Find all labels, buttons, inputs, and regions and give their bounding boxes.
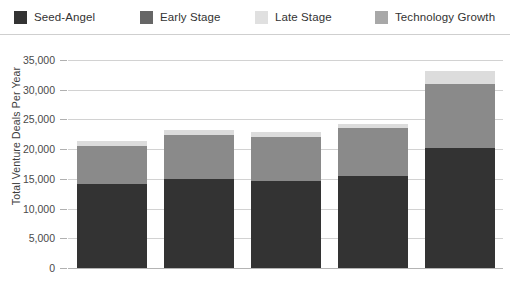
y-tick-label: 10,000 (0, 203, 55, 215)
bar-group-2016[interactable] (251, 60, 321, 268)
gridline (68, 268, 503, 269)
y-axis (0, 34, 68, 298)
plot-area: 05,00010,00015,00020,00025,00030,00035,0… (68, 60, 503, 268)
y-tick-mark (60, 60, 67, 61)
bar-chart: Total Venture Deals Per Year 05,00010,00… (0, 34, 510, 298)
bar-segment-seed-angel-2015[interactable] (164, 179, 234, 268)
y-tick-mark (60, 268, 67, 269)
legend-label-late-stage: Late Stage (275, 11, 332, 23)
legend-item-technology-growth[interactable]: Technology Growth (375, 0, 495, 34)
bar-group-2014[interactable] (77, 60, 147, 268)
y-tick-label: 25,000 (0, 113, 55, 125)
bar-segment-seed-angel-2018[interactable] (425, 148, 495, 268)
y-tick-label: 30,000 (0, 84, 55, 96)
legend-item-early-stage[interactable]: Early Stage (140, 0, 255, 34)
bar-group-2018[interactable] (425, 60, 495, 268)
bar-segment-seed-angel-2014[interactable] (77, 184, 147, 268)
y-tick-mark (60, 209, 67, 210)
y-tick-mark (60, 119, 67, 120)
legend-swatch-icon-early-stage (140, 11, 153, 24)
y-tick-mark (60, 90, 67, 91)
y-tick-label: 20,000 (0, 143, 55, 155)
legend-item-seed-angel[interactable]: Seed-Angel (14, 0, 140, 34)
bar-segment-late-stage-2017[interactable] (338, 124, 408, 128)
bar-segment-seed-angel-2016[interactable] (251, 181, 321, 268)
legend-label-seed-angel: Seed-Angel (34, 11, 95, 23)
legend-label-technology-growth: Technology Growth (395, 11, 495, 23)
bar-segment-early-stage-2016[interactable] (251, 137, 321, 182)
y-tick-mark (60, 179, 67, 180)
footer-strip (0, 291, 510, 298)
bar-segment-early-stage-2017[interactable] (338, 128, 408, 176)
chart-legend: Seed-Angel Early Stage Late Stage Techno… (0, 0, 510, 34)
bar-segment-late-stage-2016[interactable] (251, 132, 321, 137)
bar-segment-early-stage-2018[interactable] (425, 84, 495, 148)
legend-label-early-stage: Early Stage (160, 11, 221, 23)
legend-swatch-icon-seed-angel (14, 11, 27, 24)
legend-swatch-icon-late-stage (255, 11, 268, 24)
y-tick-mark (60, 149, 67, 150)
legend-swatch-icon-technology-growth (375, 11, 388, 24)
bar-segment-early-stage-2015[interactable] (164, 135, 234, 178)
y-tick-label: 5,000 (0, 232, 55, 244)
y-tick-label: 15,000 (0, 173, 55, 185)
y-tick-label: 35,000 (0, 54, 55, 66)
bar-segment-late-stage-2018[interactable] (425, 71, 495, 84)
bar-segment-late-stage-2015[interactable] (164, 130, 234, 135)
legend-item-late-stage[interactable]: Late Stage (255, 0, 375, 34)
bar-group-2017[interactable] (338, 60, 408, 268)
bar-group-2015[interactable] (164, 60, 234, 268)
y-tick-mark (60, 238, 67, 239)
bar-segment-late-stage-2014[interactable] (77, 141, 147, 146)
bar-segment-early-stage-2014[interactable] (77, 146, 147, 183)
y-tick-label: 0 (0, 262, 55, 274)
bar-segment-seed-angel-2017[interactable] (338, 176, 408, 268)
